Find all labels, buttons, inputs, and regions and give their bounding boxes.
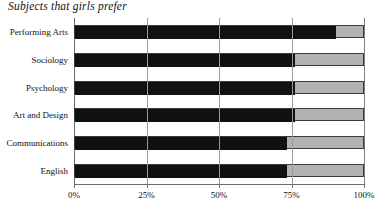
x-tick-mark [74, 184, 75, 188]
category-label: Art and Design [0, 110, 68, 120]
x-tick-mark [364, 184, 365, 188]
x-tick-mark [292, 184, 293, 188]
category-label: Psychology [0, 83, 68, 93]
gridline-25pct [147, 18, 148, 184]
x-tick-mark [219, 184, 220, 188]
category-label: Performing Arts [0, 27, 68, 37]
x-tick-label: 100% [334, 190, 379, 200]
bar-segment-girls [75, 82, 295, 95]
x-tick-label: 50% [189, 190, 249, 200]
bar-segment-girls [75, 26, 336, 39]
category-label: Sociology [0, 55, 68, 65]
category-label: English [0, 166, 68, 176]
chart-title: Subjects that girls prefer [8, 0, 127, 12]
gridline-100pct [364, 18, 365, 184]
chart-container: Subjects that girls prefer Performing Ar… [0, 0, 379, 210]
bar-segment-girls [75, 109, 295, 122]
category-label: Communications [0, 138, 68, 148]
x-tick-label: 25% [117, 190, 177, 200]
bar-segment-girls [75, 54, 295, 67]
x-tick-label: 75% [262, 190, 322, 200]
bar-segment-girls [75, 137, 287, 150]
gridline-75pct [292, 18, 293, 184]
gridline-50pct [219, 18, 220, 184]
x-tick-mark [147, 184, 148, 188]
bar-segment-girls [75, 165, 287, 178]
x-tick-label: 0% [44, 190, 104, 200]
